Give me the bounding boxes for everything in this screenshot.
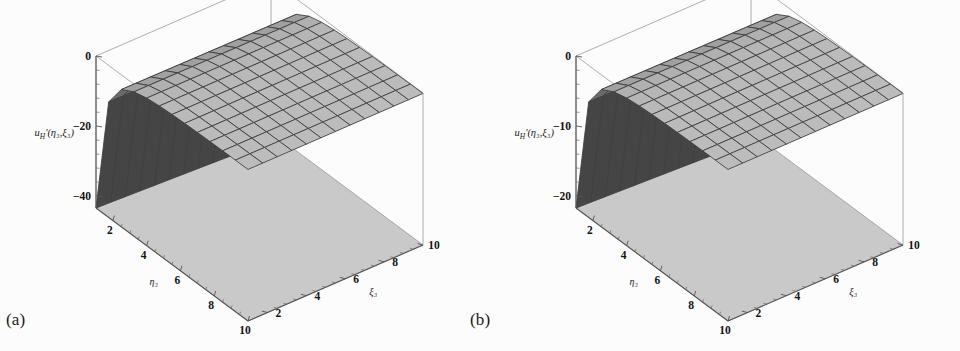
eta-tick-label: 2	[107, 224, 113, 236]
eta-tick-label: 6	[175, 274, 181, 286]
vertical-tick-label: −20	[73, 120, 91, 132]
svg-text:uH'(η₃,ξ₃): uH'(η₃,ξ₃)	[34, 127, 74, 141]
xi-tick-label: 8	[872, 256, 878, 268]
xi-tick-label: 6	[833, 273, 839, 285]
surface-plot-b-svg: 0−10−20uH'(η₃,ξ₃)246810η₃246810ξ₃	[480, 0, 960, 351]
xi-tick-label: 6	[353, 273, 359, 285]
svg-text:uH'(η₃,ξ₃): uH'(η₃,ξ₃)	[514, 127, 554, 141]
xi-tick-label: 4	[314, 290, 320, 302]
xi-axis-label: ξ₃	[849, 286, 857, 298]
vertical-tick-label: 0	[85, 50, 91, 62]
vertical-tick-label: −20	[553, 190, 571, 202]
vertical-axis-label: uH'(η₃,ξ₃)	[34, 127, 74, 141]
xi-tick-label: 8	[392, 256, 398, 268]
xi-axis-label: ξ₃	[369, 286, 377, 298]
eta-tick-label: 4	[141, 249, 147, 261]
xi-tick-label: 2	[756, 307, 762, 319]
vertical-axis-label: uH'(η₃,ξ₃)	[514, 127, 554, 141]
vertical-tick-label: −10	[553, 120, 571, 132]
panel-caption-a: (a)	[6, 310, 25, 330]
surface-plot-a-svg: 0−20−40uH'(η₃,ξ₃)246810η₃246810ξ₃	[0, 0, 480, 351]
eta-tick-label: 6	[655, 274, 661, 286]
vertical-tick-label: 0	[565, 50, 571, 62]
surface-plot-panel-b: 0−10−20uH'(η₃,ξ₃)246810η₃246810ξ₃	[480, 0, 960, 351]
eta-tick-label: 2	[587, 224, 593, 236]
eta-tick-label: 8	[688, 299, 694, 311]
xi-tick-label: 2	[276, 307, 282, 319]
xi-tick-label: 10	[428, 239, 440, 251]
xi-tick-label: 4	[794, 290, 800, 302]
vertical-tick-label: −40	[73, 190, 91, 202]
surface-plot-panel-a: 0−20−40uH'(η₃,ξ₃)246810η₃246810ξ₃	[0, 0, 480, 351]
eta-axis-label: η₃	[630, 276, 639, 287]
eta-tick-label: 8	[208, 299, 214, 311]
figure-container: 0−20−40uH'(η₃,ξ₃)246810η₃246810ξ₃ 0−10−2…	[0, 0, 960, 351]
eta-axis-label: η₃	[150, 276, 159, 287]
eta-tick-label: 4	[621, 249, 627, 261]
panel-caption-b: (b)	[470, 310, 490, 330]
xi-tick-label: 10	[908, 239, 920, 251]
eta-tick-label: 10	[239, 324, 251, 336]
eta-tick-label: 10	[719, 324, 731, 336]
